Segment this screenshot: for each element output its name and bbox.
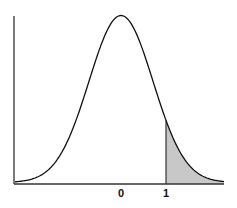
x-tick-label-0: 0 <box>118 187 124 199</box>
normal-distribution-chart: 0 1 <box>0 0 237 208</box>
bell-curve <box>15 16 224 182</box>
shaded-tail-area <box>166 120 224 184</box>
x-tick-label-1: 1 <box>163 187 169 199</box>
